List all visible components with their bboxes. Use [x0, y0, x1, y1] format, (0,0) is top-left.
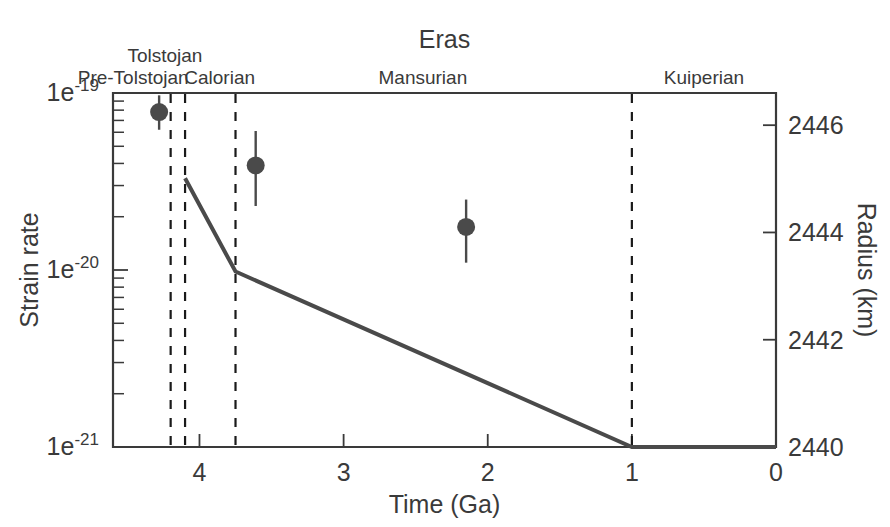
- era-label: Kuiperian: [664, 67, 744, 88]
- xtick-label: 2: [481, 458, 495, 486]
- ytick-label-left: 1e-21: [47, 430, 99, 460]
- strain-rate-chart: 1e-211e-201e-19Strain rate24402442244424…: [0, 0, 890, 527]
- ytick-label-right: 2446: [788, 111, 844, 139]
- era-label: Tolstojan: [127, 45, 202, 66]
- yaxis-title-right: Radius (km): [853, 203, 881, 338]
- model-line: [185, 178, 776, 447]
- xtick-label: 3: [337, 458, 351, 486]
- data-point-marker: [457, 218, 475, 236]
- xaxis-title: Time (Ga): [389, 490, 501, 518]
- ytick-label-left: 1e-20: [47, 253, 99, 283]
- yaxis-title-left: Strain rate: [15, 212, 43, 327]
- ytick-label-right: 2440: [788, 433, 844, 461]
- data-point-marker: [150, 103, 168, 121]
- ytick-label-right: 2442: [788, 326, 844, 354]
- era-label: Calorian: [184, 67, 255, 88]
- chart-title: Eras: [419, 25, 470, 53]
- data-point-marker: [247, 156, 265, 174]
- xtick-label: 0: [769, 458, 783, 486]
- era-label: Mansurian: [379, 67, 468, 88]
- xtick-label: 4: [193, 458, 207, 486]
- plot-frame: [113, 93, 776, 447]
- xtick-label: 1: [625, 458, 639, 486]
- era-label: Pre-Tolstojan: [78, 67, 189, 88]
- ytick-label-right: 2444: [788, 218, 844, 246]
- chart-canvas: 1e-211e-201e-19Strain rate24402442244424…: [0, 0, 890, 527]
